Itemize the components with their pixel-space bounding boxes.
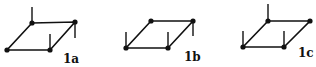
vertex-dot (190, 18, 195, 23)
figure-label-1b: 1b (184, 51, 201, 63)
figure-1b (123, 18, 195, 50)
parallelogram-outline (126, 21, 193, 48)
parallelogram-outline (243, 21, 310, 47)
parallelogram-figures (0, 0, 316, 67)
vertex-dot (240, 44, 245, 49)
vertex-dot (165, 45, 170, 50)
figure-1c (240, 4, 312, 50)
vertex-dot (47, 47, 52, 52)
vertex-dot (123, 45, 128, 50)
figure-label-1a: 1a (63, 53, 79, 65)
vertex-dot (265, 18, 270, 23)
vertex-dot (4, 47, 9, 52)
vertex-dot (29, 20, 34, 25)
figure-1a (4, 7, 77, 53)
vertex-dot (307, 18, 312, 23)
vertex-dot (281, 44, 286, 49)
figure-label-1c: 1c (298, 47, 314, 59)
parallelogram-outline (7, 22, 75, 50)
vertex-dot (72, 19, 77, 24)
diagram-canvas: 1a 1b 1c (0, 0, 316, 67)
vertex-dot (148, 18, 153, 23)
